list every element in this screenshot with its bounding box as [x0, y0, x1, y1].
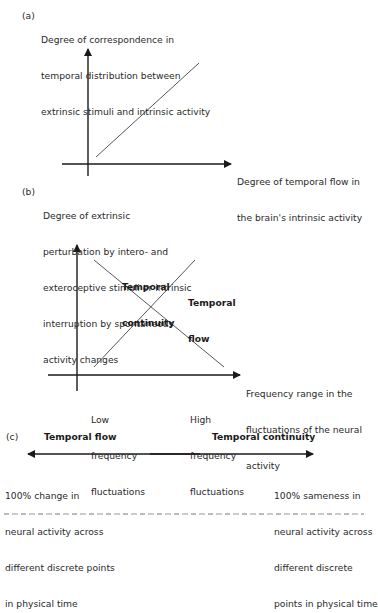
panel-a-label: (a): [22, 10, 35, 22]
panel-b-flow-label: Temporal flow: [188, 273, 236, 357]
panel-c-left-title: Temporal flow: [44, 431, 116, 443]
panel-c-left-description: 100% change in neural activity across di…: [5, 466, 115, 613]
clipped-caption-fragment: [0, 511, 370, 516]
panel-b-continuity-label: Temporal continuity: [122, 257, 174, 341]
panel-b-high-frequency-label: High frequency fluctuations: [190, 390, 244, 510]
panel-a-x-axis-label: Degree of temporal flow in the brain's i…: [237, 152, 362, 236]
panel-c-right-title: Temporal continuity: [212, 431, 315, 443]
panel-b-label: (b): [22, 186, 35, 198]
panel-c-label: (c): [6, 431, 18, 443]
panel-a-y-axis-label: Degree of correspondence in temporal dis…: [41, 10, 210, 130]
panel-c-right-description: 100% sameness in neural activity across …: [274, 466, 378, 613]
